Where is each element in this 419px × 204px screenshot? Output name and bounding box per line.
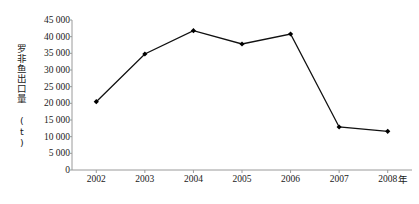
x-axis-tick-label: 2003 (122, 174, 168, 185)
x-axis-tick-label: 2005 (219, 174, 265, 185)
x-axis-tick-label: 2004 (170, 174, 216, 185)
x-axis-tick-label: 2002 (73, 174, 119, 185)
x-axis-tick-label: 2007 (316, 174, 362, 185)
x-axis-tick-label: 2006 (268, 174, 314, 185)
x-axis-tick-labels: 2002200320042005200620072008 (0, 0, 419, 204)
x-axis-unit-label: 年 (398, 174, 408, 185)
chart-container: 罗非鱼出口量 (t) 05 00010 00015 00020 00025 00… (0, 0, 419, 204)
